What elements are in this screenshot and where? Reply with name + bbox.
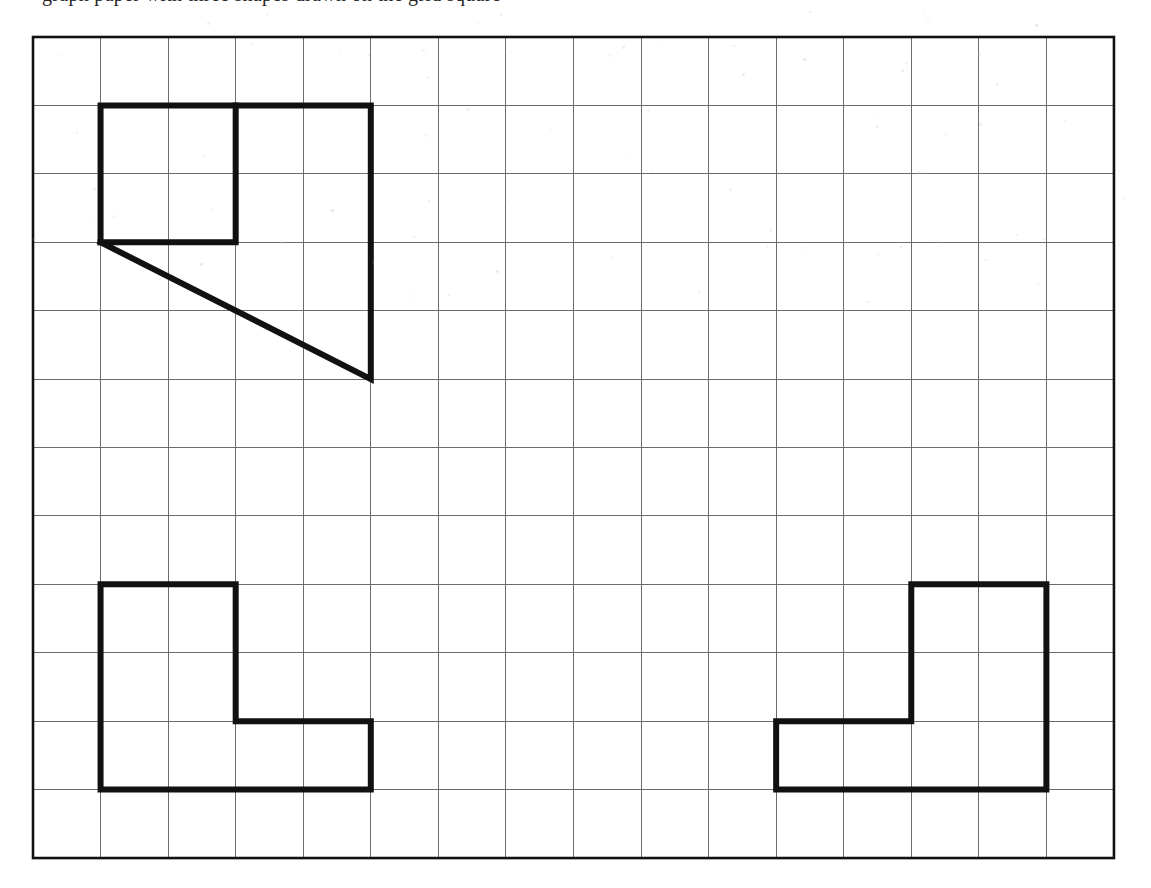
grid-figure-canvas: [0, 0, 1151, 888]
grid-lines-group: [33, 37, 1114, 858]
worksheet-page: graph paper with three shapes drawn on t…: [0, 0, 1151, 888]
